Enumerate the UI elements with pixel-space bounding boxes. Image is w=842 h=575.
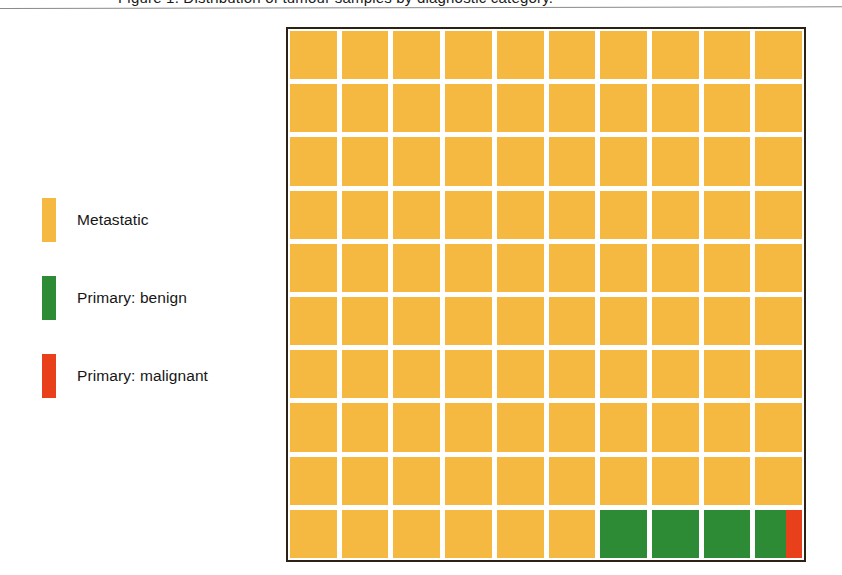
waffle-cell [600, 403, 647, 451]
figure-caption-text: Figure 1. Distribution of tumour samples… [118, 0, 553, 6]
waffle-cell [652, 31, 699, 79]
waffle-cell [549, 191, 596, 239]
waffle-cell [704, 31, 751, 79]
waffle-cell [497, 137, 544, 185]
waffle-cell [393, 137, 440, 185]
waffle-cell [755, 297, 802, 345]
waffle-cell [342, 84, 389, 132]
waffle-cell [704, 84, 751, 132]
waffle-chart-frame [286, 27, 806, 562]
legend-swatch-primary-benign [42, 276, 56, 320]
legend-label-primary-benign: Primary: benign [77, 289, 187, 307]
waffle-cell [445, 403, 492, 451]
waffle-cell [652, 244, 699, 292]
waffle-cell [549, 84, 596, 132]
waffle-cell [393, 457, 440, 505]
waffle-cell [342, 244, 389, 292]
waffle-cell [445, 457, 492, 505]
waffle-cell [704, 403, 751, 451]
waffle-cell [600, 84, 647, 132]
waffle-cell [393, 297, 440, 345]
waffle-cell [549, 457, 596, 505]
waffle-cell [393, 191, 440, 239]
waffle-cell [549, 510, 596, 558]
waffle-cell [652, 350, 699, 398]
waffle-cell [600, 297, 647, 345]
waffle-cell [342, 191, 389, 239]
waffle-cell [445, 84, 492, 132]
waffle-cell-segment-0 [755, 510, 785, 558]
waffle-cell [549, 244, 596, 292]
waffle-cell [755, 84, 802, 132]
waffle-cell [755, 403, 802, 451]
waffle-cell [342, 510, 389, 558]
waffle-cell [445, 137, 492, 185]
waffle-cell [445, 350, 492, 398]
waffle-cell [600, 137, 647, 185]
waffle-cell [652, 457, 699, 505]
waffle-cell [445, 31, 492, 79]
waffle-cell [600, 191, 647, 239]
waffle-cell [755, 31, 802, 79]
waffle-cell [445, 191, 492, 239]
waffle-cell [445, 510, 492, 558]
waffle-cell [290, 403, 337, 451]
waffle-cell [704, 244, 751, 292]
waffle-cell [497, 244, 544, 292]
waffle-cell [290, 137, 337, 185]
waffle-cell [704, 350, 751, 398]
waffle-cell [290, 510, 337, 558]
legend-label-primary-malignant: Primary: malignant [77, 367, 208, 385]
waffle-cell [652, 191, 699, 239]
waffle-cell [342, 31, 389, 79]
waffle-cell [755, 510, 802, 558]
waffle-cell [393, 31, 440, 79]
waffle-cell [342, 403, 389, 451]
legend-swatch-primary-malignant [42, 354, 56, 398]
waffle-cell [652, 137, 699, 185]
waffle-cell [600, 457, 647, 505]
waffle-cell [393, 350, 440, 398]
waffle-cell [704, 457, 751, 505]
waffle-cell [704, 510, 751, 558]
waffle-cell [497, 84, 544, 132]
waffle-cell [393, 403, 440, 451]
waffle-cell [393, 244, 440, 292]
legend-label-metastatic: Metastatic [77, 211, 149, 229]
waffle-cell-segment-1 [786, 510, 802, 558]
waffle-cell [755, 191, 802, 239]
waffle-cell [497, 350, 544, 398]
waffle-cell [393, 510, 440, 558]
waffle-cell [290, 31, 337, 79]
waffle-cell [549, 403, 596, 451]
waffle-cell [704, 297, 751, 345]
waffle-cell [497, 510, 544, 558]
waffle-cell [600, 510, 647, 558]
waffle-cell [497, 457, 544, 505]
figure-canvas: Figure 1. Distribution of tumour samples… [0, 0, 842, 575]
waffle-cell [704, 191, 751, 239]
waffle-cell [600, 31, 647, 79]
waffle-cell [497, 31, 544, 79]
waffle-cell [600, 244, 647, 292]
waffle-cell [290, 191, 337, 239]
waffle-cell [652, 84, 699, 132]
waffle-cell [600, 350, 647, 398]
waffle-cell [652, 403, 699, 451]
waffle-cell [652, 510, 699, 558]
waffle-cell [497, 191, 544, 239]
waffle-cell [290, 244, 337, 292]
waffle-cell [342, 457, 389, 505]
waffle-cell [755, 350, 802, 398]
waffle-cell [704, 137, 751, 185]
waffle-cell [290, 84, 337, 132]
waffle-cell [549, 350, 596, 398]
waffle-cell [342, 137, 389, 185]
waffle-cell [755, 137, 802, 185]
waffle-cell [342, 350, 389, 398]
legend-swatch-metastatic [42, 198, 56, 242]
waffle-cell [549, 137, 596, 185]
waffle-cell [445, 297, 492, 345]
waffle-cell [290, 350, 337, 398]
waffle-cell [445, 244, 492, 292]
